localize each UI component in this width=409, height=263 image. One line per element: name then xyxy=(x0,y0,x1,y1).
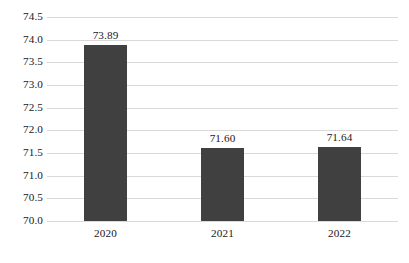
y-tick-label: 73.0 xyxy=(0,79,43,90)
y-tick-label: 71.0 xyxy=(0,170,43,181)
y-tick-label: 71.5 xyxy=(0,147,43,158)
bar-value-label: 73.89 xyxy=(66,30,146,41)
y-tick-label: 73.5 xyxy=(0,57,43,68)
gridline xyxy=(47,221,398,222)
y-tick-label: 72.0 xyxy=(0,125,43,136)
x-tick-label: 2021 xyxy=(183,228,263,239)
gridline xyxy=(47,17,398,18)
bar[interactable] xyxy=(318,147,361,221)
x-axis: 202020212022 xyxy=(47,228,398,248)
bar-value-label: 71.60 xyxy=(183,133,263,144)
y-tick-label: 74.5 xyxy=(0,11,43,22)
bar[interactable] xyxy=(201,148,244,221)
plot-area xyxy=(47,17,398,221)
y-tick-label: 72.5 xyxy=(0,102,43,113)
bar[interactable] xyxy=(84,45,127,221)
y-axis: 74.574.073.573.072.572.071.571.070.570.0 xyxy=(0,0,43,263)
bar-chart: 74.574.073.573.072.572.071.571.070.570.0… xyxy=(0,0,409,263)
y-tick-label: 70.0 xyxy=(0,215,43,226)
y-tick-label: 70.5 xyxy=(0,193,43,204)
y-tick-label: 74.0 xyxy=(0,34,43,45)
x-tick-label: 2020 xyxy=(66,228,146,239)
x-tick-label: 2022 xyxy=(300,228,380,239)
bar-value-label: 71.64 xyxy=(300,132,380,143)
